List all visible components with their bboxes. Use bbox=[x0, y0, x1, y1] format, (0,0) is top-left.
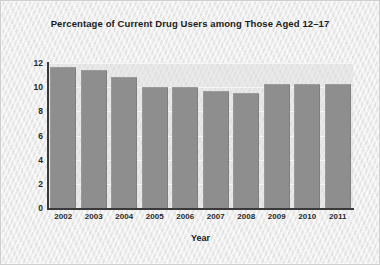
bar-2010[interactable] bbox=[294, 84, 320, 208]
bar-2004[interactable] bbox=[111, 77, 137, 209]
x-axis-line bbox=[47, 208, 354, 210]
bar-2003[interactable] bbox=[81, 70, 107, 208]
bar-2005[interactable] bbox=[142, 87, 168, 208]
x-tick-label: 2010 bbox=[292, 212, 323, 221]
y-tick-label: 6 bbox=[3, 131, 43, 141]
x-tick-label: 2003 bbox=[79, 212, 110, 221]
bar-2011[interactable] bbox=[325, 84, 351, 208]
x-axis-title: Year bbox=[48, 233, 353, 243]
bar-slot bbox=[48, 63, 79, 208]
bar-slot bbox=[109, 63, 140, 208]
x-tick-label: 2009 bbox=[262, 212, 293, 221]
y-tick-label: 8 bbox=[3, 106, 43, 116]
bar-slot bbox=[140, 63, 171, 208]
bar-slot bbox=[262, 63, 293, 208]
bar-slot bbox=[201, 63, 232, 208]
x-tick-label: 2002 bbox=[48, 212, 79, 221]
y-tick-label: 4 bbox=[3, 155, 43, 165]
x-tick-label: 2005 bbox=[140, 212, 171, 221]
y-tick-label: 10 bbox=[3, 82, 43, 92]
y-axis-tick-labels: 024681012 bbox=[1, 1, 43, 265]
chart-figure: Percentage of Current Drug Users among T… bbox=[0, 0, 380, 265]
bar-2002[interactable] bbox=[50, 67, 76, 208]
x-tick-label: 2006 bbox=[170, 212, 201, 221]
chart-title: Percentage of Current Drug Users among T… bbox=[1, 18, 379, 29]
y-tick-label: 0 bbox=[3, 203, 43, 213]
bar-slot bbox=[231, 63, 262, 208]
bar-2007[interactable] bbox=[203, 91, 229, 208]
y-tick-label: 12 bbox=[3, 58, 43, 68]
bar-slot bbox=[323, 63, 354, 208]
y-tick-label: 2 bbox=[3, 179, 43, 189]
bar-slot bbox=[79, 63, 110, 208]
x-tick-label: 2011 bbox=[323, 212, 354, 221]
bar-2008[interactable] bbox=[233, 93, 259, 208]
bar-series bbox=[48, 63, 353, 208]
bar-slot bbox=[170, 63, 201, 208]
x-tick-label: 2008 bbox=[231, 212, 262, 221]
x-tick-label: 2007 bbox=[201, 212, 232, 221]
bar-2006[interactable] bbox=[172, 87, 198, 208]
bar-slot bbox=[292, 63, 323, 208]
bar-2009[interactable] bbox=[264, 84, 290, 208]
x-tick-label: 2004 bbox=[109, 212, 140, 221]
